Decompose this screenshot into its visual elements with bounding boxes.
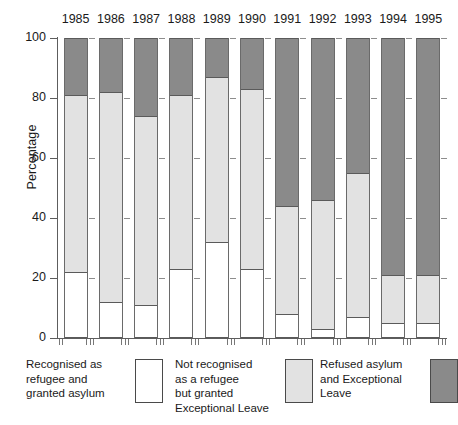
bar-segment-recognised-1988[interactable] <box>170 269 192 338</box>
bar-column-1995[interactable] <box>416 38 440 338</box>
bar-segment-exceptional-leave-1989[interactable] <box>206 77 228 242</box>
stacked-bar-1987[interactable] <box>134 38 158 338</box>
year-label-1988: 1988 <box>161 12 201 26</box>
bar-segment-recognised-1993[interactable] <box>347 317 369 338</box>
stacked-bar-1994[interactable] <box>381 38 405 338</box>
bar-segment-refused-1986[interactable] <box>100 38 122 92</box>
gap-tick-1992-40 <box>336 218 342 219</box>
bar-segment-refused-1988[interactable] <box>170 38 192 95</box>
x-tick-1985-1 <box>90 339 91 345</box>
year-label-1985: 1985 <box>56 12 96 26</box>
stacked-bar-1985[interactable] <box>64 38 88 338</box>
bar-column-1991[interactable] <box>275 38 299 338</box>
bar-segment-recognised-1995[interactable] <box>417 323 439 338</box>
bar-segment-refused-1989[interactable] <box>206 38 228 77</box>
bar-segment-refused-1990[interactable] <box>241 38 263 89</box>
stacked-bar-1993[interactable] <box>346 38 370 338</box>
gap-tick-1990-60 <box>265 158 271 159</box>
stacked-bar-1988[interactable] <box>169 38 193 338</box>
bar-segment-recognised-1994[interactable] <box>382 323 404 338</box>
x-tick-1993-0 <box>368 339 369 345</box>
x-tick-1991-0 <box>297 339 298 345</box>
bar-segment-refused-1994[interactable] <box>382 38 404 275</box>
stacked-bar-1990[interactable] <box>240 38 264 338</box>
bar-segment-exceptional-leave-1988[interactable] <box>170 95 192 269</box>
bar-segment-exceptional-leave-1985[interactable] <box>65 95 87 272</box>
gap-tick-1995-80 <box>441 98 447 99</box>
legend-swatch-refused[interactable] <box>430 359 458 403</box>
bar-segment-exceptional-leave-1991[interactable] <box>276 206 298 314</box>
bar-segment-exceptional-leave-1987[interactable] <box>135 116 157 305</box>
stacked-bar-1992[interactable] <box>311 38 335 338</box>
bar-segment-exceptional-leave-1992[interactable] <box>312 200 334 329</box>
bar-column-1986[interactable] <box>99 38 123 338</box>
gap-tick-1985-80 <box>89 98 95 99</box>
x-tick-1985-0 <box>86 339 87 345</box>
gap-tick-1986-100 <box>124 38 130 39</box>
gap-tick-1991-40 <box>300 218 306 219</box>
gap-tick-1990-100 <box>265 38 271 39</box>
bar-segment-refused-1987[interactable] <box>135 38 157 116</box>
x-tick-leading-1 <box>62 339 63 345</box>
year-label-1990: 1990 <box>232 12 272 26</box>
x-tick-1987-0 <box>156 339 157 345</box>
bar-segment-exceptional-leave-1995[interactable] <box>417 275 439 323</box>
gap-tick-1991-60 <box>300 158 306 159</box>
stacked-bar-1995[interactable] <box>416 38 440 338</box>
x-tick-1986-0 <box>121 339 122 345</box>
bar-segment-recognised-1987[interactable] <box>135 305 157 338</box>
year-label-1986: 1986 <box>91 12 131 26</box>
bar-column-1988[interactable] <box>169 38 193 338</box>
x-tick-1993-1 <box>372 339 373 345</box>
gap-tick-1986-20 <box>124 278 130 279</box>
legend-label-1: Recognised as refugee and granted asylum <box>26 357 138 401</box>
bar-segment-recognised-1990[interactable] <box>241 269 263 338</box>
bar-segment-recognised-1989[interactable] <box>206 242 228 338</box>
x-axis-line <box>57 338 447 339</box>
bar-segment-refused-1993[interactable] <box>347 38 369 173</box>
bar-segment-refused-1991[interactable] <box>276 38 298 206</box>
x-tick-1992-2 <box>340 339 341 345</box>
bar-column-1989[interactable] <box>205 38 229 338</box>
gap-tick-1990-20 <box>265 278 271 279</box>
x-tick-1995-1 <box>442 339 443 345</box>
bar-segment-recognised-1992[interactable] <box>312 329 334 338</box>
bar-column-1985[interactable] <box>64 38 88 338</box>
bar-column-1990[interactable] <box>240 38 264 338</box>
bar-segment-exceptional-leave-1994[interactable] <box>382 275 404 323</box>
gap-tick-1992-100 <box>336 38 342 39</box>
bar-column-1993[interactable] <box>346 38 370 338</box>
bar-column-1992[interactable] <box>311 38 335 338</box>
y-tick-60 <box>50 158 57 159</box>
bar-segment-exceptional-leave-1993[interactable] <box>347 173 369 317</box>
stacked-bar-1989[interactable] <box>205 38 229 338</box>
stacked-bar-1986[interactable] <box>99 38 123 338</box>
x-tick-leading-0 <box>59 339 60 345</box>
stacked-bar-1991[interactable] <box>275 38 299 338</box>
bar-segment-recognised-1986[interactable] <box>100 302 122 338</box>
x-tick-1990-1 <box>266 339 267 345</box>
x-tick-1994-0 <box>403 339 404 345</box>
bar-segment-exceptional-leave-1986[interactable] <box>100 92 122 302</box>
legend-swatch-recognised[interactable] <box>135 359 163 403</box>
gap-tick-1990-80 <box>265 98 271 99</box>
gap-tick-1992-20 <box>336 278 342 279</box>
gap-tick-1986-80 <box>124 98 130 99</box>
gap-tick-1986-40 <box>124 218 130 219</box>
bar-column-1994[interactable] <box>381 38 405 338</box>
bar-segment-exceptional-leave-1990[interactable] <box>241 89 263 269</box>
legend-swatch-exceptional-leave[interactable] <box>285 359 313 403</box>
y-tick-label-100: 100 <box>6 31 46 44</box>
x-tick-1986-1 <box>125 339 126 345</box>
bar-segment-refused-1992[interactable] <box>312 38 334 200</box>
y-tick-80 <box>50 98 57 99</box>
bar-segment-refused-1985[interactable] <box>65 38 87 95</box>
bar-segment-recognised-1985[interactable] <box>65 272 87 338</box>
gap-tick-1988-20 <box>194 278 200 279</box>
bar-segment-recognised-1991[interactable] <box>276 314 298 338</box>
bar-column-1987[interactable] <box>134 38 158 338</box>
x-tick-1990-2 <box>269 339 270 345</box>
legend-label-2: Not recognised as a refugee but granted … <box>175 357 287 415</box>
bar-segment-refused-1995[interactable] <box>417 38 439 275</box>
x-tick-1989-0 <box>227 339 228 345</box>
